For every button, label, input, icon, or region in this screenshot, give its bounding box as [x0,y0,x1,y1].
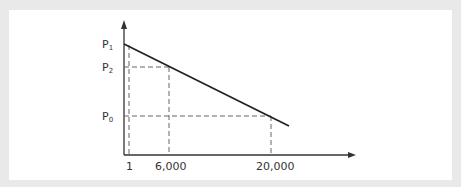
label-p0: P0 [102,110,113,124]
label-p2: P2 [102,61,113,75]
label-x6000: 6,000 [155,160,187,173]
demand-line [124,44,289,126]
label-x1: 1 [126,160,133,173]
chart-svg: P1 P2 P0 1 6,000 20,000 [0,0,461,187]
y-axis-arrow-icon [121,20,127,29]
label-x20000: 20,000 [256,160,295,173]
x-axis-arrow-icon [348,152,356,158]
label-p1: P1 [102,38,113,52]
